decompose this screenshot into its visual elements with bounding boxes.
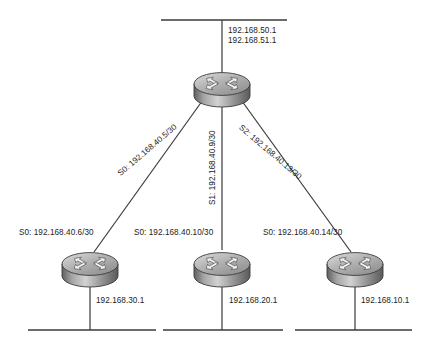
branch-router-right[interactable] (327, 253, 383, 287)
branch-router-left[interactable] (62, 253, 118, 287)
branch-right-interface-label: S0: 192.168.40.14/30 (263, 228, 342, 238)
top-lan-address-2: 192.168.51.1 (228, 36, 276, 46)
branch-center-interface-label: S0: 192.168.40.10/30 (134, 228, 213, 238)
branch-center-lan-address: 192.168.20.1 (229, 296, 277, 306)
branch-right-lan-address: 192.168.10.1 (361, 296, 409, 306)
top-lan-address-1: 192.168.50.1 (228, 26, 276, 36)
branch-left-lan-address: 192.168.30.1 (96, 296, 144, 306)
core-router[interactable] (194, 73, 250, 107)
top-lan-address-block: 192.168.50.1 192.168.51.1 (228, 26, 276, 46)
branch-router-center[interactable] (194, 253, 250, 287)
branch-left-interface-label: S0: 192.168.40.6/30 (19, 228, 94, 238)
serial-1-link-label: S1: 192.168.40.9/30 (208, 130, 218, 205)
